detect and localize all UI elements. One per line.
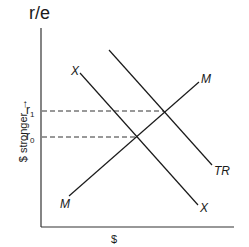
r1-label: r1 — [26, 104, 34, 119]
x-curve-label-bottom: X — [200, 202, 208, 214]
tr-curve-label: TR — [214, 165, 230, 177]
r1-sub: 1 — [30, 110, 34, 119]
r0-sub: 0 — [30, 136, 34, 145]
x-axis-label: $ — [111, 234, 117, 245]
x-curve-label-top: X — [71, 65, 79, 77]
diagram-canvas — [0, 0, 249, 247]
y-axis-label: r/e — [29, 4, 50, 22]
r0-label: r0 — [26, 130, 34, 145]
m-curve — [69, 82, 199, 196]
x-curve — [80, 73, 198, 205]
m-curve-label-bottom: M — [60, 198, 70, 210]
m-curve-label-top: M — [201, 73, 211, 85]
